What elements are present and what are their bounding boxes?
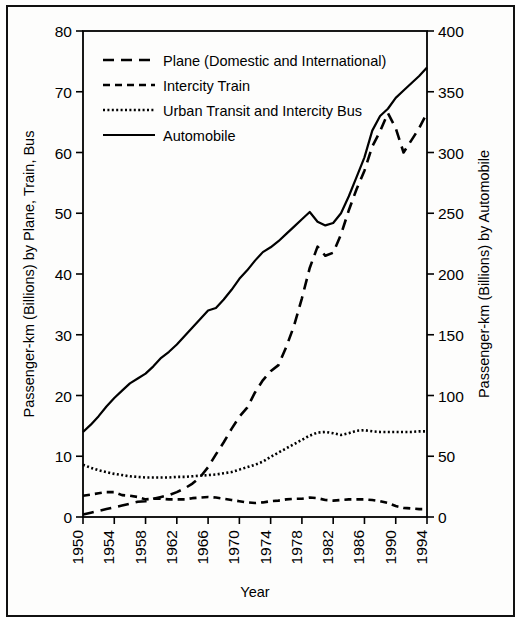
x-tick-label: 1986	[350, 530, 367, 564]
x-tick-label: 1982	[319, 530, 336, 564]
x-tick-label: 1978	[288, 530, 305, 564]
y-right-tick-label: 300	[438, 145, 464, 162]
x-tick-label: 1950	[69, 530, 86, 565]
y-right-tick-label: 50	[438, 448, 456, 465]
x-tick-label: 1994	[413, 530, 430, 565]
x-tick-label: 1962	[163, 530, 180, 564]
series-line-urban-transit-and-intercity-bus	[83, 430, 427, 477]
y-left-tick-label: 50	[55, 205, 73, 222]
y-left-tick-label: 10	[55, 448, 73, 465]
x-axis-title: Year	[240, 584, 269, 600]
x-tick-label: 1970	[225, 530, 242, 565]
y-left-tick-label: 30	[55, 327, 73, 344]
figure-frame: 1950195419581962196619701974197819821986…	[6, 5, 515, 617]
x-tick-label: 1958	[132, 530, 149, 564]
y-axis-right-tick-labels: 050100150200250300350400	[438, 23, 464, 526]
left-axis-title: Passenger-km (Billions) by Plane, Train,…	[21, 131, 37, 418]
y-right-tick-label: 200	[438, 266, 464, 283]
series-line-automobile	[83, 67, 427, 432]
x-axis-tick-labels: 1950195419581962196619701974197819821986…	[69, 530, 430, 565]
x-tick-label: 1954	[100, 530, 117, 565]
series-line-intercity-train	[83, 492, 427, 509]
legend-label: Urban Transit and Intercity Bus	[163, 103, 362, 119]
y-right-tick-label: 150	[438, 327, 464, 344]
y-left-tick-label: 70	[55, 84, 73, 101]
x-tick-label: 1966	[194, 530, 211, 564]
y-right-tick-label: 250	[438, 205, 464, 222]
x-tick-label: 1990	[382, 530, 399, 565]
y-right-tick-label: 100	[438, 388, 464, 405]
legend-label: Intercity Train	[163, 78, 250, 94]
transportation-line-chart: 1950195419581962196619701974197819821986…	[8, 7, 513, 615]
y-axis-left-ticks	[76, 31, 83, 517]
y-axis-left-tick-labels: 01020304050607080	[55, 23, 73, 526]
y-right-tick-label: 350	[438, 84, 464, 101]
y-left-tick-label: 40	[55, 266, 73, 283]
y-left-tick-label: 80	[55, 23, 73, 40]
y-right-tick-label: 0	[438, 509, 447, 526]
series-line-plane-domestic-and-international	[83, 113, 427, 515]
chart-legend: Plane (Domestic and International)Interc…	[103, 53, 386, 144]
x-tick-label: 1974	[257, 530, 274, 565]
y-left-tick-label: 60	[55, 145, 73, 162]
x-axis-ticks	[83, 517, 427, 524]
legend-label: Automobile	[163, 128, 236, 144]
y-right-tick-label: 400	[438, 23, 464, 40]
y-axis-right-ticks	[427, 31, 434, 517]
right-axis-title: Passenger-km (Billions) by Automobile	[476, 150, 492, 398]
legend-label: Plane (Domestic and International)	[163, 53, 386, 69]
y-left-tick-label: 20	[55, 388, 73, 405]
y-left-tick-label: 0	[63, 509, 72, 526]
